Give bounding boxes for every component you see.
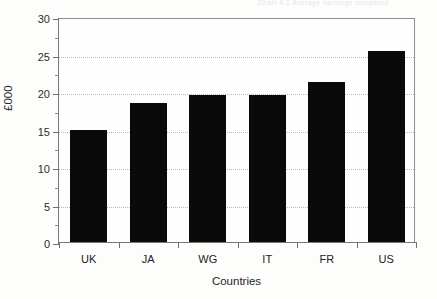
x-category-label: US [379, 253, 394, 265]
x-category-label: UK [81, 253, 96, 265]
bar [130, 103, 167, 243]
x-category-label: FR [319, 253, 334, 265]
x-tick [178, 242, 179, 248]
y-tick [53, 57, 59, 58]
bar [70, 130, 107, 243]
x-category-label: IT [262, 253, 272, 265]
y-tick-label: 25 [38, 51, 50, 63]
y-tick [53, 132, 59, 133]
bar [249, 95, 286, 242]
y-minor-tick [55, 113, 59, 114]
y-minor-tick [55, 150, 59, 151]
y-tick [53, 94, 59, 95]
x-tick [238, 242, 239, 248]
bar [308, 82, 345, 242]
y-tick-label: 15 [38, 126, 50, 138]
bar [189, 95, 226, 242]
y-minor-tick [55, 75, 59, 76]
y-tick-label: 0 [44, 238, 50, 250]
gridline [59, 132, 414, 133]
bar [368, 51, 405, 242]
plot-area: 051015202530 UKJAWGITFRUS [58, 18, 415, 243]
y-tick-label: 5 [44, 201, 50, 213]
x-tick [59, 242, 60, 248]
cutoff-header-text: Chart 4.1 Average earnings compared [258, 0, 433, 7]
y-tick [53, 207, 59, 208]
gridline [59, 207, 414, 208]
x-tick [357, 242, 358, 248]
bar-chart-figure: Chart 4.1 Average earnings compared 0510… [0, 0, 437, 299]
y-tick [53, 19, 59, 20]
y-tick-label: 10 [38, 163, 50, 175]
gridline [59, 57, 414, 58]
y-tick-label: 30 [38, 13, 50, 25]
x-tick [297, 242, 298, 248]
y-tick-label: 20 [38, 88, 50, 100]
x-category-label: WG [198, 253, 217, 265]
y-minor-tick [55, 188, 59, 189]
y-minor-tick [55, 225, 59, 226]
gridline [59, 94, 414, 95]
x-tick [416, 242, 417, 248]
gridline [59, 169, 414, 170]
x-axis-title: Countries [58, 275, 415, 287]
y-tick [53, 169, 59, 170]
x-category-label: JA [142, 253, 155, 265]
x-tick [119, 242, 120, 248]
y-axis-title: £000 [2, 85, 14, 111]
y-minor-tick [55, 38, 59, 39]
